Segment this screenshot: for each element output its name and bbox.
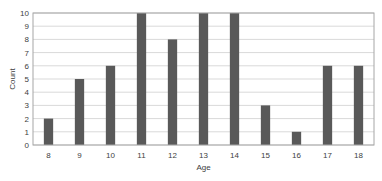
y-tick-label: 8 <box>25 35 30 44</box>
bar-14 <box>230 13 239 145</box>
y-tick-label: 7 <box>25 49 30 58</box>
x-tick-label: 11 <box>137 151 146 160</box>
x-tick-label: 12 <box>168 151 177 160</box>
y-axis-ticks: 012345678910 <box>20 9 29 150</box>
bar-17 <box>323 66 332 145</box>
x-tick-label: 18 <box>354 151 363 160</box>
bar-12 <box>168 39 177 145</box>
x-tick-label: 14 <box>230 151 239 160</box>
y-tick-label: 4 <box>25 88 30 97</box>
y-tick-label: 1 <box>25 128 30 137</box>
y-tick-label: 9 <box>25 22 30 31</box>
x-tick-label: 13 <box>199 151 208 160</box>
bar-8 <box>44 119 53 145</box>
bar-10 <box>106 66 115 145</box>
bar-16 <box>292 132 301 145</box>
bar-chart: 012345678910 89101112131415161718 Age Co… <box>0 0 382 181</box>
x-tick-label: 9 <box>77 151 82 160</box>
x-tick-label: 15 <box>261 151 270 160</box>
x-axis-label: Age <box>196 163 211 172</box>
y-tick-label: 6 <box>25 62 30 71</box>
bar-18 <box>354 66 363 145</box>
y-tick-label: 5 <box>25 75 30 84</box>
x-tick-label: 8 <box>46 151 51 160</box>
y-tick-label: 0 <box>25 141 30 150</box>
bar-15 <box>261 105 270 145</box>
y-tick-label: 2 <box>25 115 30 124</box>
y-axis-label: Count <box>8 68 17 90</box>
x-tick-label: 17 <box>323 151 332 160</box>
x-axis-ticks: 89101112131415161718 <box>46 151 363 160</box>
bar-9 <box>75 79 84 145</box>
y-tick-label: 10 <box>20 9 29 18</box>
x-tick-label: 10 <box>106 151 115 160</box>
x-tick-label: 16 <box>292 151 301 160</box>
y-tick-label: 3 <box>25 101 30 110</box>
bar-13 <box>199 13 208 145</box>
bar-11 <box>137 13 146 145</box>
